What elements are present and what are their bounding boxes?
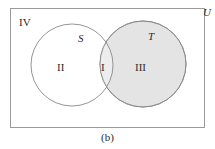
venn-diagram-canvas (0, 0, 215, 149)
venn-diagram-figure: IV U S T II I III (b) (0, 0, 215, 149)
region-label-i: I (101, 62, 105, 73)
set-label-s: S (78, 33, 84, 44)
region-label-iv: IV (19, 17, 31, 28)
figure-caption: (b) (0, 132, 215, 143)
region-label-ii: II (57, 62, 64, 73)
region-label-iii: III (135, 62, 146, 73)
universe-label: U (203, 7, 211, 18)
set-label-t: T (148, 31, 154, 42)
